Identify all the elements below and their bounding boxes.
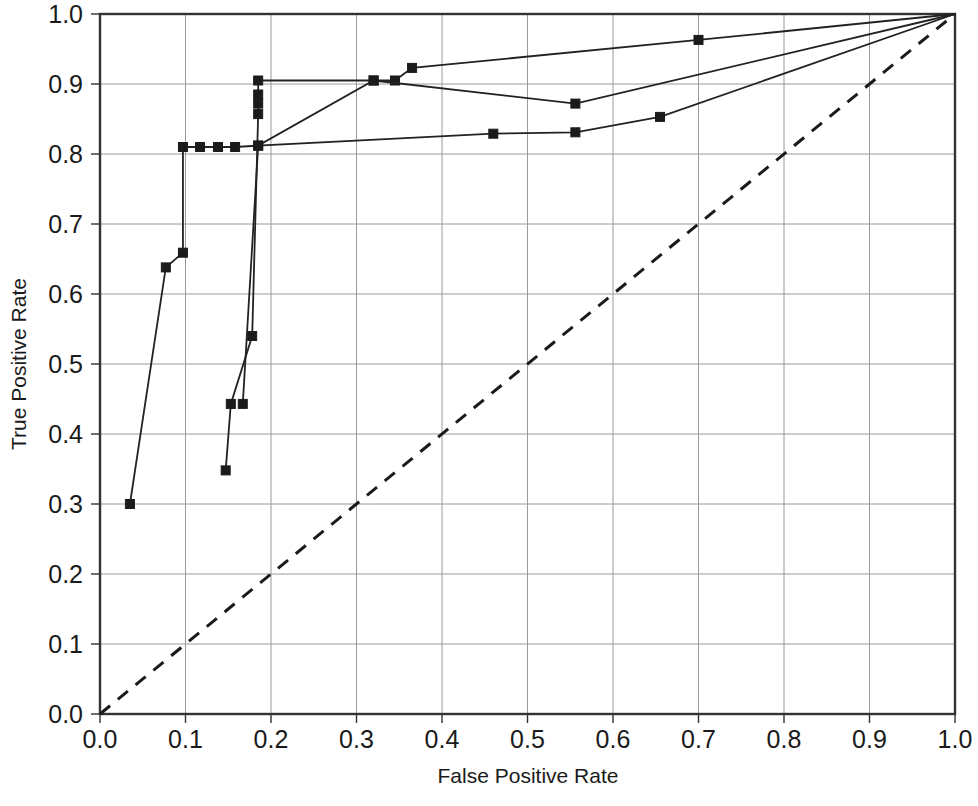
data-point-marker xyxy=(656,112,665,121)
y-tick-label: 0.2 xyxy=(48,560,83,588)
data-point-marker xyxy=(213,143,222,152)
x-tick-label: 0.0 xyxy=(83,725,118,753)
data-point-marker xyxy=(571,99,580,108)
y-tick-label: 0.3 xyxy=(48,490,83,518)
y-tick-label: 0.4 xyxy=(48,420,83,448)
x-tick-label: 0.1 xyxy=(168,725,203,753)
y-tick-label: 0.5 xyxy=(48,350,83,378)
series-roc-curve-2 xyxy=(221,14,955,475)
y-tick-label: 0.9 xyxy=(48,70,83,98)
y-tick-label: 0.0 xyxy=(48,700,83,728)
x-axis-title: False Positive Rate xyxy=(438,764,619,787)
x-tick-label: 0.3 xyxy=(339,725,374,753)
data-point-marker xyxy=(254,141,263,150)
x-tick-labels: 0.00.10.20.30.40.50.60.70.80.91.0 xyxy=(83,725,973,753)
data-point-marker xyxy=(408,63,417,72)
y-tick-label: 0.8 xyxy=(48,140,83,168)
y-axis-ticks xyxy=(91,14,100,714)
data-point-marker xyxy=(161,263,170,272)
data-point-marker xyxy=(248,332,257,341)
x-tick-label: 0.5 xyxy=(510,725,545,753)
data-point-marker xyxy=(178,248,187,257)
data-point-marker xyxy=(489,129,498,138)
x-tick-label: 0.6 xyxy=(596,725,631,753)
data-point-marker xyxy=(254,110,263,119)
data-point-marker xyxy=(231,143,240,152)
data-point-marker xyxy=(254,90,263,99)
y-tick-label: 1.0 xyxy=(48,0,83,28)
y-tick-label: 0.1 xyxy=(48,630,83,658)
series-line xyxy=(243,14,955,404)
y-tick-label: 0.7 xyxy=(48,210,83,238)
x-axis-ticks xyxy=(100,714,955,723)
data-point-marker xyxy=(369,76,378,85)
data-point-marker xyxy=(694,35,703,44)
x-tick-label: 0.9 xyxy=(852,725,887,753)
data-point-marker xyxy=(196,143,205,152)
data-point-marker xyxy=(254,76,263,85)
data-point-marker xyxy=(254,99,263,108)
x-tick-label: 1.0 xyxy=(938,725,973,753)
y-axis-title: True Positive Rate xyxy=(7,278,30,450)
x-tick-label: 0.8 xyxy=(767,725,802,753)
series-roc-curve-3 xyxy=(238,14,955,408)
y-tick-labels: 0.00.10.20.30.40.50.60.70.80.91.0 xyxy=(48,0,83,728)
x-tick-label: 0.4 xyxy=(425,725,460,753)
x-tick-label: 0.7 xyxy=(681,725,716,753)
y-tick-label: 0.6 xyxy=(48,280,83,308)
data-point-marker xyxy=(178,143,187,152)
data-point-marker xyxy=(226,399,235,408)
data-point-marker xyxy=(221,466,230,475)
data-point-marker xyxy=(125,500,134,509)
data-point-marker xyxy=(571,128,580,137)
data-point-marker xyxy=(238,399,247,408)
x-tick-label: 0.2 xyxy=(254,725,289,753)
series-line xyxy=(226,14,955,470)
roc-chart-figure: 0.00.10.20.30.40.50.60.70.80.91.0 0.00.1… xyxy=(0,0,978,806)
roc-chart-canvas: 0.00.10.20.30.40.50.60.70.80.91.0 0.00.1… xyxy=(0,0,978,806)
